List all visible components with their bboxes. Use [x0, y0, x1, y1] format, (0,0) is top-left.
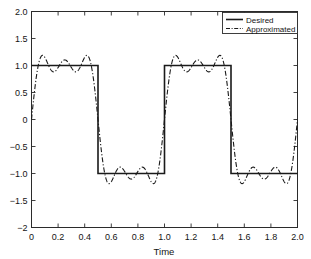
y-tick-label: 1.0 [15, 61, 28, 71]
chart-canvas: 00.20.40.60.81.01.21.41.61.82.0 2.01.51.… [0, 0, 311, 259]
y-tick-label: −0.5 [10, 142, 28, 152]
x-tick-label: 0.4 [78, 232, 91, 242]
y-tick-label: 0 [22, 115, 27, 125]
y-tick-label: 0.5 [15, 88, 28, 98]
legend: Desired Approximated [223, 13, 298, 34]
figure-background [0, 0, 311, 259]
x-tick-label: 0.6 [105, 232, 118, 242]
y-tick-label: −1.0 [10, 169, 28, 179]
x-axis-title: Time [154, 246, 175, 257]
y-tick-label: 1.5 [15, 34, 28, 44]
x-tick-label: 0 [29, 232, 34, 242]
legend-label-approximated: Approximated [246, 25, 295, 34]
x-tick-label: 0.8 [132, 232, 145, 242]
x-tick-label: 2.0 [291, 232, 304, 242]
x-tick-label: 1.0 [158, 232, 171, 242]
y-tick-label: 2.0 [15, 7, 28, 17]
y-tick-label: −1.5 [10, 196, 28, 206]
x-tick-label: 1.6 [238, 232, 251, 242]
x-tick-label: 1.4 [211, 232, 224, 242]
x-tick-label: 1.2 [185, 232, 198, 242]
legend-label-desired: Desired [246, 16, 274, 25]
x-tick-label: 0.2 [52, 232, 65, 242]
x-tick-label: 1.8 [265, 232, 278, 242]
figure-container: 00.20.40.60.81.01.21.41.61.82.0 2.01.51.… [0, 0, 311, 259]
y-tick-label: −2 [17, 223, 27, 233]
